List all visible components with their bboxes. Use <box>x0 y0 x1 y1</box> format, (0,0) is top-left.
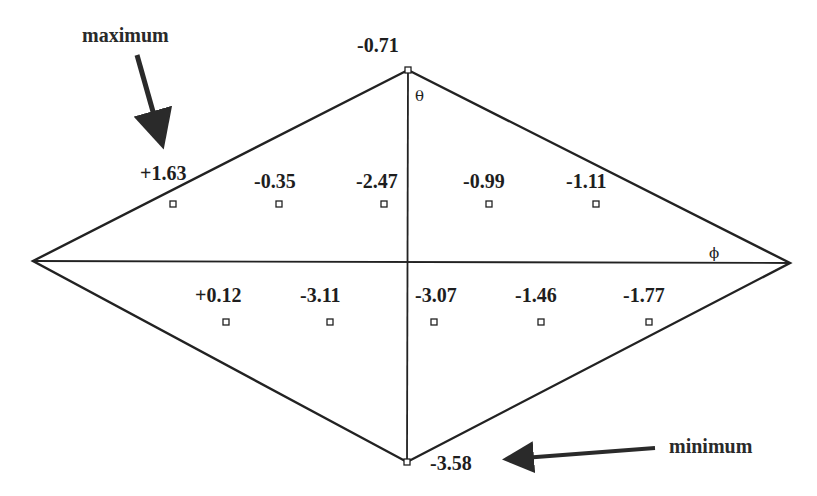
maximum-label: maximum <box>82 24 169 46</box>
vertical-axis <box>407 70 408 462</box>
upper-point-1 <box>170 201 176 207</box>
minimum-label: minimum <box>669 435 753 457</box>
upper-point-2 <box>276 201 282 207</box>
upper-value-1: +1.63 <box>140 162 186 184</box>
upper-value-5: -1.11 <box>566 170 607 192</box>
vertex-top-value: -0.71 <box>357 34 399 56</box>
minimum-arrow-icon <box>510 448 655 459</box>
vertex-bottom-marker <box>404 459 410 465</box>
vertex-top-marker <box>405 67 411 73</box>
lower-value-2: -3.11 <box>300 284 341 306</box>
theta-label: θ <box>415 87 424 105</box>
vertex-bottom-value: -3.58 <box>430 452 472 474</box>
lower-value-3: -3.07 <box>415 284 457 306</box>
maximum-arrow-icon <box>137 55 161 140</box>
upper-value-4: -0.99 <box>463 170 505 192</box>
rhombus-outline <box>33 70 790 462</box>
lower-value-4: -1.46 <box>515 284 557 306</box>
lower-row: +0.12 -3.11 -3.07 -1.46 -1.77 <box>195 284 665 325</box>
lower-point-4 <box>538 319 544 325</box>
rhombus-diagram: θ ϕ -0.71 -3.58 +1.63 -0.35 -2.47 -0.99 … <box>0 0 817 496</box>
lower-point-3 <box>431 319 437 325</box>
lower-point-2 <box>327 319 333 325</box>
upper-row: +1.63 -0.35 -2.47 -0.99 -1.11 <box>140 162 607 207</box>
lower-point-1 <box>223 319 229 325</box>
upper-value-3: -2.47 <box>356 170 398 192</box>
upper-point-4 <box>486 201 492 207</box>
horizontal-axis <box>33 261 790 263</box>
upper-point-3 <box>381 201 387 207</box>
lower-value-1: +0.12 <box>195 284 241 306</box>
upper-value-2: -0.35 <box>254 170 296 192</box>
phi-label: ϕ <box>709 244 719 262</box>
lower-point-5 <box>646 319 652 325</box>
lower-value-5: -1.77 <box>623 284 665 306</box>
upper-point-5 <box>593 201 599 207</box>
